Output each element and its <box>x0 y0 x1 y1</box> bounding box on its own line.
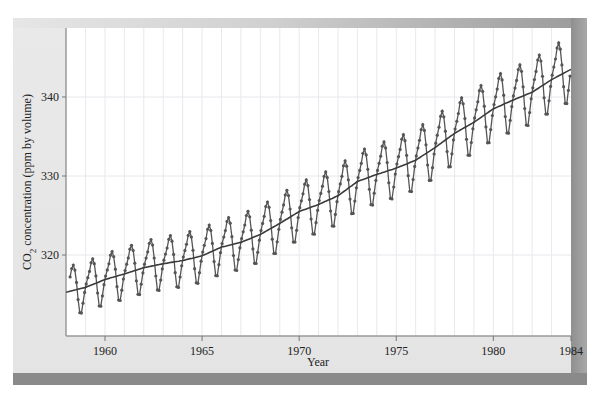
data-point-marker <box>135 279 138 282</box>
data-point-marker <box>224 229 227 232</box>
data-point-marker <box>497 77 500 80</box>
data-point-marker <box>261 222 264 225</box>
data-point-marker <box>345 165 348 168</box>
data-point-marker <box>376 169 379 172</box>
data-point-marker <box>235 269 238 272</box>
data-point-marker <box>374 179 377 182</box>
y-axis-title: CO2 concentration (ppm by volume) <box>20 94 38 270</box>
data-point-marker <box>91 257 94 260</box>
data-point-marker <box>449 165 452 168</box>
x-tick-label: 1965 <box>190 344 214 358</box>
y-tick-label: 330 <box>41 169 59 183</box>
data-point-marker <box>149 238 152 241</box>
data-point-marker <box>433 152 436 155</box>
data-point-marker <box>400 138 403 141</box>
data-point-marker <box>204 237 207 240</box>
data-point-marker <box>439 115 442 118</box>
data-point-marker <box>371 204 374 207</box>
data-point-marker <box>318 199 321 202</box>
data-point-marker <box>169 234 172 237</box>
data-point-marker <box>209 229 212 232</box>
data-point-marker <box>559 48 562 51</box>
data-point-marker <box>426 163 429 166</box>
data-point-marker <box>437 126 440 129</box>
data-point-marker <box>397 155 400 158</box>
data-point-marker <box>86 276 89 279</box>
data-point-marker <box>151 244 154 247</box>
data-point-marker <box>373 192 376 195</box>
data-point-marker <box>517 68 520 71</box>
data-point-marker <box>340 175 343 178</box>
data-point-marker <box>106 268 109 271</box>
data-point-marker <box>120 289 123 292</box>
data-point-marker <box>246 210 249 213</box>
data-point-marker <box>124 269 127 272</box>
data-point-marker <box>219 251 222 254</box>
data-point-marker <box>230 235 233 238</box>
data-point-marker <box>170 240 173 243</box>
data-point-marker <box>227 216 230 219</box>
data-point-marker <box>324 170 327 173</box>
data-point-marker <box>81 302 84 305</box>
data-point-marker <box>179 275 182 278</box>
data-point-marker <box>83 291 86 294</box>
data-point-marker <box>528 111 531 114</box>
data-point-marker <box>73 269 76 272</box>
data-point-marker <box>499 72 502 75</box>
data-point-marker <box>225 220 228 223</box>
data-point-marker <box>533 78 536 81</box>
data-point-marker <box>337 190 340 193</box>
y-axis-title-suffix: concentration (ppm by volume) <box>20 94 34 249</box>
data-point-marker <box>251 247 254 250</box>
data-point-marker <box>269 219 272 222</box>
data-point-marker <box>132 249 135 252</box>
data-point-marker <box>539 59 542 62</box>
data-point-marker <box>271 238 274 241</box>
data-point-marker <box>522 85 525 88</box>
data-point-marker <box>536 59 539 62</box>
data-point-marker <box>556 46 559 49</box>
data-point-marker <box>323 175 326 178</box>
data-point-marker <box>526 124 529 127</box>
x-tick-label: 1980 <box>481 344 505 358</box>
data-point-marker <box>538 53 541 56</box>
data-point-marker <box>319 192 322 195</box>
data-point-marker <box>183 249 186 252</box>
data-point-marker <box>565 102 568 105</box>
data-point-marker <box>365 153 368 156</box>
data-point-marker <box>339 182 342 185</box>
data-point-marker <box>287 194 290 197</box>
data-point-marker <box>232 254 235 257</box>
data-point-marker <box>119 299 122 302</box>
y-tick-label: 340 <box>41 90 59 104</box>
data-point-marker <box>237 258 240 261</box>
data-point-marker <box>491 114 494 117</box>
co2-chart: 196019651970197519801984 320330340 Year … <box>0 0 601 396</box>
data-point-marker <box>240 237 243 240</box>
data-point-marker <box>413 165 416 168</box>
data-point-marker <box>93 262 96 265</box>
data-point-marker <box>203 244 206 247</box>
data-point-marker <box>308 198 311 201</box>
data-point-marker <box>327 190 330 193</box>
data-point-marker <box>258 239 261 242</box>
data-point-marker <box>274 252 277 255</box>
data-point-marker <box>395 162 398 165</box>
data-point-marker <box>266 200 269 203</box>
data-point-marker <box>344 159 347 162</box>
y-tick-label: 320 <box>41 248 59 262</box>
data-point-marker <box>431 166 434 169</box>
data-point-marker <box>297 216 300 219</box>
data-point-marker <box>455 120 458 123</box>
data-point-marker <box>551 74 554 77</box>
x-axis-ticks: 196019651970197519801984 <box>93 336 583 358</box>
data-point-marker <box>494 95 497 98</box>
data-point-marker <box>399 148 402 151</box>
data-point-marker <box>450 152 453 155</box>
data-point-marker <box>475 108 478 111</box>
x-tick-label: 1984 <box>559 344 583 358</box>
data-point-marker <box>468 154 471 157</box>
data-point-marker <box>268 206 271 209</box>
data-point-marker <box>454 128 457 131</box>
data-point-marker <box>560 63 563 66</box>
